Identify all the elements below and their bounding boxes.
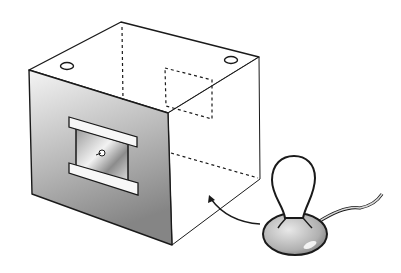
top-hole-left (61, 63, 74, 70)
joystick (263, 156, 382, 255)
box-joystick-diagram (0, 0, 401, 273)
joystick-base (263, 213, 327, 255)
top-hole-right (225, 57, 238, 64)
box (29, 22, 260, 245)
illustration (0, 0, 401, 273)
joystick-stick (272, 156, 315, 218)
